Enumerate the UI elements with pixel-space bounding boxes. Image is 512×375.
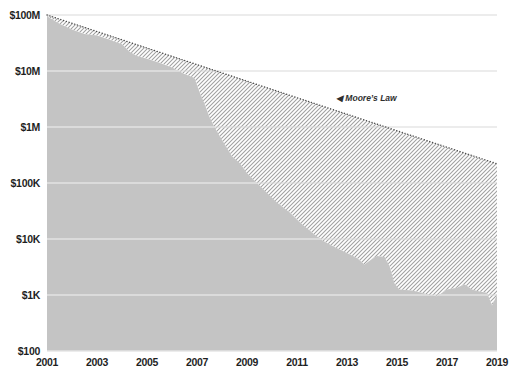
y-axis-tick-label: $100 xyxy=(18,345,41,357)
x-axis-tick-label: 2013 xyxy=(336,356,359,368)
y-axis-tick-label: $1K xyxy=(22,289,41,301)
x-axis-tick-label: 2019 xyxy=(486,356,509,368)
x-axis-tick-label: 2001 xyxy=(36,356,59,368)
y-axis-tick-label: $10M xyxy=(15,65,41,77)
genome-cost-chart: $100M$10M$1M$100K$10K$1K$100200120032005… xyxy=(0,0,512,375)
x-axis-tick-label: 2009 xyxy=(236,356,259,368)
x-axis-tick-label: 2011 xyxy=(286,356,308,368)
x-axis-tick-label: 2015 xyxy=(386,356,409,368)
cost-chart-canvas: $100M$10M$1M$100K$10K$1K$100200120032005… xyxy=(0,0,512,375)
y-axis-tick-label: $100K xyxy=(11,177,41,189)
x-axis-tick-label: 2007 xyxy=(186,356,209,368)
y-axis-tick-label: $100M xyxy=(9,9,40,21)
x-axis-tick-label: 2005 xyxy=(136,356,159,368)
x-axis-tick-label: 2017 xyxy=(436,356,459,368)
x-axis-tick-label: 2003 xyxy=(86,356,109,368)
y-axis-tick-label: $10K xyxy=(16,233,41,245)
y-axis-tick-label: $1M xyxy=(20,121,40,133)
